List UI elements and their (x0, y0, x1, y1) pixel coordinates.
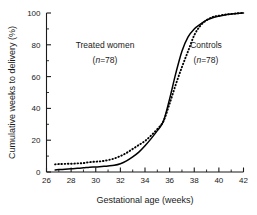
x-axis-tick-labels: 262830323436384042 (42, 176, 248, 185)
y-tick-label: 100 (27, 9, 41, 18)
treated-women-label: Treated women (76, 40, 135, 50)
chart-series-group (55, 13, 243, 170)
x-tick-label: 40 (214, 176, 223, 185)
controls-label: Controls (190, 40, 222, 50)
annotation-treated-women: Treated women (n=78) (76, 40, 135, 65)
controls-n: (n=78) (194, 55, 219, 65)
chart-axes (47, 13, 244, 172)
x-tick-label: 28 (67, 176, 76, 185)
chart-figure: 262830323436384042 020406080100 Gestatio… (0, 0, 257, 215)
treated-women-n: (n=78) (93, 55, 118, 65)
y-tick-label: 80 (32, 41, 41, 50)
x-axis-title: Gestational age (weeks) (96, 195, 193, 205)
y-tick-label: 60 (32, 73, 41, 82)
y-tick-label: 20 (32, 136, 41, 145)
y-axis-tick-labels: 020406080100 (27, 9, 41, 177)
series-line-treated-women (55, 13, 243, 170)
x-tick-label: 34 (141, 176, 150, 185)
controls-n-close: =78) (201, 55, 218, 65)
x-tick-label: 26 (42, 176, 51, 185)
y-axis-title: Cumulative weeks to delivery (%) (7, 26, 17, 159)
x-tick-label: 42 (239, 176, 248, 185)
x-tick-label: 30 (91, 176, 100, 185)
treated-n-close: =78) (100, 55, 117, 65)
x-tick-label: 38 (190, 176, 199, 185)
y-tick-label: 0 (36, 168, 41, 177)
cumulative-delivery-chart: 262830323436384042 020406080100 Gestatio… (0, 0, 257, 215)
x-tick-label: 32 (116, 176, 125, 185)
x-tick-label: 36 (165, 176, 174, 185)
y-tick-label: 40 (32, 104, 41, 113)
annotation-controls: Controls (n=78) (190, 40, 222, 65)
